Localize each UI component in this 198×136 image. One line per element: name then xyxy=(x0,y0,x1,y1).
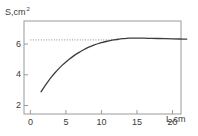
y-tick-label: 2 xyxy=(9,101,21,110)
x-tick-label: 20 xyxy=(164,118,180,127)
y-axis-label-text: S,cm xyxy=(5,7,26,17)
series-layer xyxy=(41,38,187,92)
y-axis-label: S,cm2 xyxy=(5,6,30,17)
y-axis-label-exponent: 2 xyxy=(27,6,30,12)
chart-figure: S,cm2 L,cm 05101520 246 xyxy=(0,0,198,136)
x-tick-label: 10 xyxy=(93,118,109,127)
x-axis-tick-marks xyxy=(30,110,172,114)
plot-frame-rect xyxy=(24,21,181,114)
data-curve xyxy=(41,38,187,92)
y-axis-tick-marks xyxy=(24,44,28,105)
x-tick-label: 5 xyxy=(58,118,74,127)
y-tick-label: 4 xyxy=(9,70,21,79)
plot-frame xyxy=(24,21,181,114)
y-tick-label: 6 xyxy=(9,40,21,49)
x-tick-label: 0 xyxy=(22,118,38,127)
x-tick-label: 15 xyxy=(129,118,145,127)
